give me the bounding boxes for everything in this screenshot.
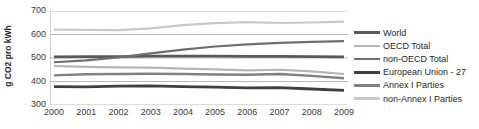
legend-item[interactable]: Annex I Parties: [354, 79, 479, 92]
plot-area: [50, 11, 348, 105]
legend-item-label: non-Annex I Parties: [383, 94, 462, 104]
legend-item-label: OECD Total: [383, 41, 430, 51]
x-tick-label-2001: 2001: [69, 107, 103, 118]
x-tick-label-2002: 2002: [101, 107, 135, 118]
series-line-non-oecd-total: [54, 41, 344, 62]
co2-intensity-line-chart: g CO2 pro kWh 300400500600700 2000200120…: [0, 0, 479, 129]
x-tick-label-2009: 2009: [327, 107, 361, 118]
series-line-european-union-27: [54, 86, 344, 90]
x-tick-label-2006: 2006: [230, 107, 264, 118]
y-tick-label-500: 500: [16, 53, 46, 62]
y-tick-label-700: 700: [16, 6, 46, 15]
legend-item[interactable]: World: [354, 26, 479, 39]
legend-item[interactable]: non-OECD Total: [354, 52, 479, 65]
y-tick-label-600: 600: [16, 30, 46, 39]
series-line-annex-i-parties: [54, 74, 344, 78]
legend-swatch-icon: [354, 58, 380, 60]
legend-swatch-icon: [354, 97, 380, 99]
legend-item-label: Annex I Parties: [383, 80, 444, 90]
x-tick-label-2004: 2004: [166, 107, 200, 118]
legend-item-label: non-OECD Total: [383, 54, 448, 64]
y-axis-tick-labels: 300400500600700: [14, 0, 46, 112]
legend-swatch-icon: [354, 84, 380, 86]
series-line-non-annex-i-parties: [54, 22, 344, 30]
series-line-oecd-total: [54, 66, 344, 74]
x-tick-label-2003: 2003: [134, 107, 168, 118]
y-tick-label-400: 400: [16, 77, 46, 86]
x-axis-tick-labels: 2000200120022003200420052006200720082009: [50, 107, 348, 125]
legend-item-label: World: [383, 28, 406, 38]
legend-swatch-icon: [354, 31, 380, 34]
legend-item[interactable]: European Union - 27: [354, 66, 479, 79]
legend: WorldOECD Totalnon-OECD TotalEuropean Un…: [354, 26, 479, 105]
legend-swatch-icon: [354, 45, 380, 47]
legend-item[interactable]: OECD Total: [354, 39, 479, 52]
legend-item-label: European Union - 27: [383, 67, 466, 77]
x-tick-label-2000: 2000: [37, 107, 71, 118]
legend-item[interactable]: non-Annex I Parties: [354, 92, 479, 105]
series-line-world: [54, 56, 344, 57]
x-tick-label-2005: 2005: [198, 107, 232, 118]
legend-swatch-icon: [354, 71, 380, 74]
y-axis-title-label: g CO2 pro kWh: [3, 25, 13, 86]
x-tick-label-2007: 2007: [263, 107, 297, 118]
x-tick-label-2008: 2008: [295, 107, 329, 118]
plot-svg: [50, 11, 348, 105]
